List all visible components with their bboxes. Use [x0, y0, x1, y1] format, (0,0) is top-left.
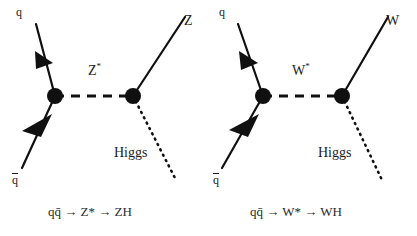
- propagator-symbol-wh: W: [292, 63, 305, 78]
- label-incoming-antiquark-wh: q: [213, 174, 219, 186]
- vertex-right-zh: [125, 88, 141, 104]
- label-incoming-quark-wh: q: [219, 6, 225, 18]
- higgs-out-line-zh: [133, 96, 176, 180]
- label-outgoing-boson-zh: Z: [184, 14, 193, 28]
- caption-zh-text: qq̄ → Z* → ZH: [48, 205, 132, 218]
- label-propagator-zh: Z*: [88, 62, 101, 78]
- feynman-figure: q q Z* Z Higgs q q W* W Higgs q qq̄ → Z*…: [0, 0, 417, 236]
- propagator-symbol-zh: Z: [88, 63, 97, 78]
- label-incoming-antiquark-zh: q: [12, 174, 18, 186]
- vertex-right-wh: [334, 88, 350, 104]
- propagator-star-zh: *: [97, 61, 102, 71]
- antiquark-overbar-wh: q: [213, 174, 219, 186]
- diagram-zh: [22, 17, 185, 180]
- vertex-left-wh: [255, 88, 271, 104]
- label-outgoing-higgs-zh: Higgs: [114, 146, 147, 160]
- boson-out-line-wh: [342, 17, 388, 96]
- antiquark-overbar-zh: q: [12, 174, 18, 186]
- caption-wh-text: qq̄ → W* → WH: [250, 205, 342, 218]
- propagator-star-wh: *: [305, 61, 310, 71]
- label-incoming-quark-zh: q: [16, 6, 22, 18]
- diagram-wh: [222, 17, 388, 180]
- boson-out-line-zh: [133, 17, 185, 96]
- label-propagator-wh: W*: [292, 62, 310, 78]
- label-outgoing-boson-wh: W: [386, 14, 399, 28]
- diagram-canvas: [0, 0, 417, 236]
- antiquark-in-arrowhead-wh: [229, 114, 259, 137]
- label-outgoing-higgs-wh: Higgs: [318, 146, 351, 160]
- higgs-out-line-wh: [342, 96, 382, 180]
- vertex-left-zh: [47, 88, 63, 104]
- antiquark-in-arrowhead-zh: [22, 114, 52, 137]
